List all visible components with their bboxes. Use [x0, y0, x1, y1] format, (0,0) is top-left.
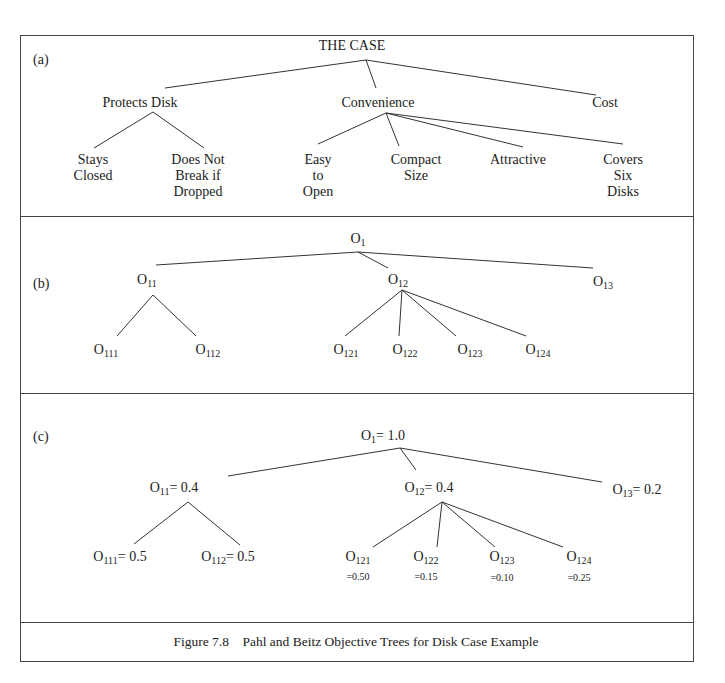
node-o124: O124 [525, 342, 550, 358]
panel-c-label: (c) [33, 429, 49, 445]
node-cost: Cost [592, 95, 618, 111]
node-protects-disk: Protects Disk [102, 95, 177, 111]
node-o11-weight: O11= 0.4 [150, 480, 199, 496]
leaf-easy-to-open: EasytoOpen [303, 152, 333, 200]
node-o1: O1 [350, 231, 365, 247]
node-o111: O111 [94, 342, 118, 358]
node-o11: O11 [137, 272, 157, 288]
leaf-does-not-break: Does NotBreak ifDropped [171, 152, 224, 200]
node-o112-weight: O112= 0.5 [201, 549, 255, 565]
node-o112: O112 [196, 342, 221, 358]
panel-b-label: (b) [33, 276, 49, 292]
node-o121: O121 [333, 342, 358, 358]
node-convenience: Convenience [341, 95, 414, 111]
node-o123: O123 [457, 342, 482, 358]
leaf-stays-closed: StaysClosed [74, 152, 113, 184]
leaf-attractive: Attractive [490, 152, 546, 168]
node-o124-weight: O124=0.25 [566, 549, 591, 586]
node-o1-weight: O1= 1.0 [361, 428, 405, 444]
node-o13-weight: O13= 0.2 [612, 482, 661, 498]
node-o12-weight: O12= 0.4 [404, 480, 453, 496]
node-o121-weight: O121=0.50 [345, 549, 370, 585]
leaf-covers-six-disks: CoversSixDisks [603, 152, 643, 200]
panel-a-label: (a) [33, 52, 49, 68]
root-node-the-case: THE CASE [319, 38, 386, 54]
node-o12: O12 [388, 272, 408, 288]
node-o122-weight: O122=0.15 [413, 549, 438, 585]
figure-caption: Figure 7.8 Pahl and Beitz Objective Tree… [173, 634, 538, 650]
node-o111-weight: O111= 0.5 [93, 549, 146, 565]
node-o13: O13 [593, 274, 613, 290]
leaf-compact-size: CompactSize [391, 152, 442, 184]
node-o122: O122 [392, 342, 417, 358]
node-o123-weight: O123=0.10 [489, 549, 514, 586]
